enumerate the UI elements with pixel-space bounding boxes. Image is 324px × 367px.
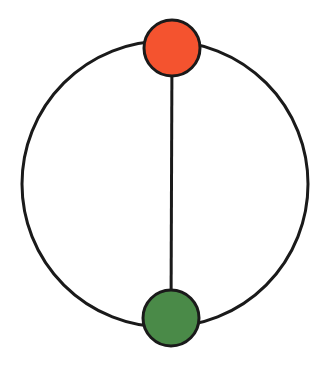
outer-cycle-edge (22, 41, 308, 327)
node-bottom-green[interactable] (143, 290, 199, 346)
chord-edge (171, 48, 172, 317)
node-top-orange[interactable] (144, 20, 200, 76)
graph-diagram (0, 0, 324, 367)
